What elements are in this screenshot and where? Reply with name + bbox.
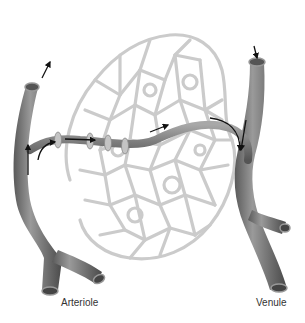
venule-entry-arrow — [254, 46, 257, 58]
thoroughfare-channel — [30, 125, 248, 160]
arteriole-label: Arteriole — [61, 297, 98, 308]
venule-label: Venule — [256, 297, 287, 308]
arteriole-exit-arrow — [42, 62, 50, 78]
venule-vessel — [235, 58, 290, 292]
capillary-bed-diagram — [0, 0, 305, 323]
arteriole-vessel — [14, 83, 107, 295]
